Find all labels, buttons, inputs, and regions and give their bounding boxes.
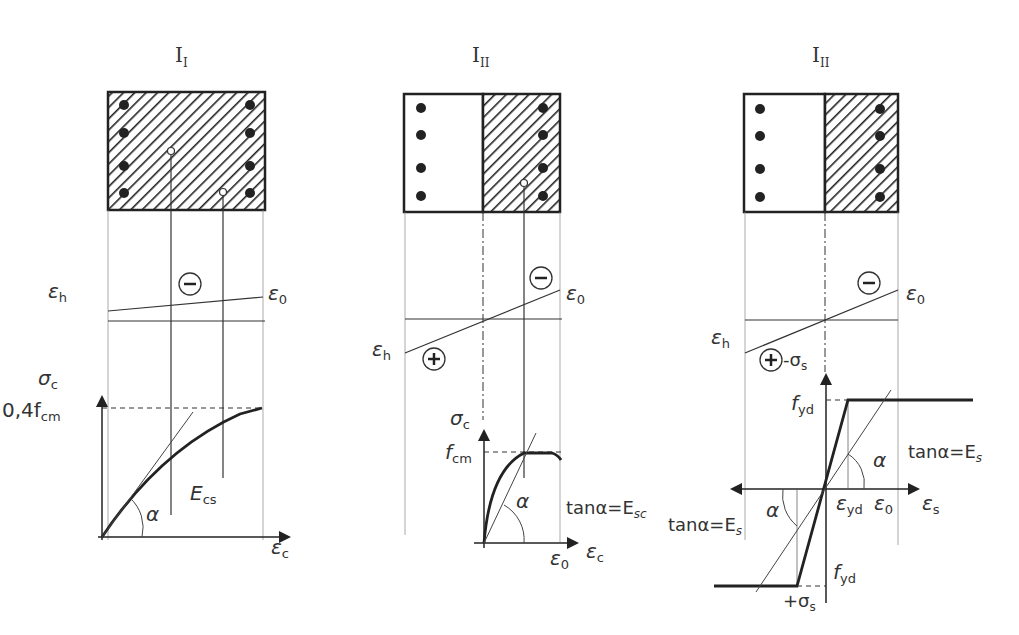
cross-section-open [404,94,483,212]
cross-section-hatched [825,94,898,212]
cross-section-hatched [483,94,560,212]
ecs-label: Ecs [190,481,217,507]
alpha-label: α [516,489,529,513]
plus-sigma-s-label: +σs [783,590,816,614]
tan-es-left-label: tanα=Es [668,514,742,538]
tan-es-right-label: tanα=Es [908,441,982,465]
eps-0-label: ε0 [268,281,287,307]
eps-0-tick: ε0 [874,491,893,517]
eps-yd-label: εyd [836,491,863,517]
eps-0-label: ε0 [566,281,585,307]
eps-h-label: εh [711,325,730,351]
sigma-c-label: σc [38,366,58,392]
tan-esc-label: tanα=Esc [566,497,647,521]
fyd-bottom-label: fyd [833,560,856,586]
eps-0-tick: ε0 [550,546,569,572]
panel-1: II εh ε0 σc 0,4fcm Ecs α εc [2,43,289,561]
panel-2: III εh ε0 σc fcm α tanα=Esc εc ε0 [372,43,647,572]
sigma-c-label: σc [450,406,470,432]
alpha-label: α [146,502,159,526]
eps-0-label: ε0 [906,281,925,307]
alpha-label-left: α [766,498,779,522]
diagram-canvas: II εh ε0 σc 0,4fcm Ecs α εc III [0,0,1019,635]
panel-3: III -σs εh ε0 fyd fyd α α [668,43,982,614]
strain-line [108,297,263,311]
eps-h-label: εh [372,337,391,363]
fcm-label: fcm [445,440,472,466]
minus-sigma-s-label: -σs [783,349,807,373]
cross-section-hatched [108,92,265,210]
strain-line [745,290,898,353]
eps-c-label: εc [586,539,604,565]
eps-h-label: εh [48,279,67,305]
ytick-label: 0,4fcm [2,398,61,424]
fyd-top-label: fyd [791,391,814,417]
fiber-marker [220,189,227,196]
eps-s-label: εs [922,491,940,517]
panel-3-title: III [812,43,830,70]
alpha-label-right: α [873,448,886,472]
eps-c-label: εc [271,535,289,561]
panel-2-title: III [472,43,490,70]
panel-1-title: II [175,43,188,70]
fiber-marker [168,148,175,155]
